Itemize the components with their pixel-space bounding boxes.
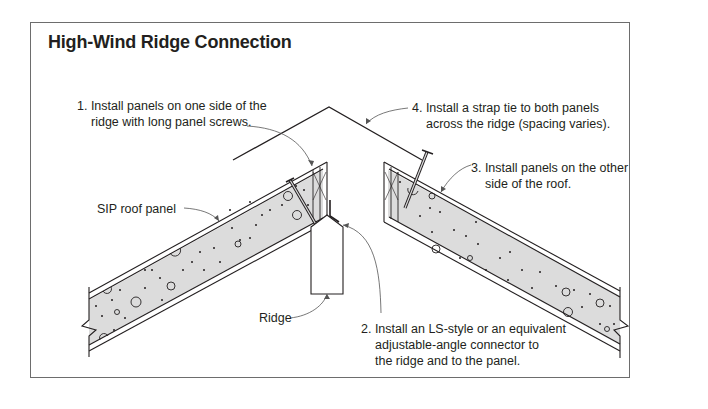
- callout-step4: 4. Install a strap tie to both panels ac…: [412, 100, 610, 132]
- callout-step2: 2. Install an LS-style or an equivalent …: [361, 321, 566, 369]
- leader-step4: [366, 108, 408, 124]
- leader-step2: [343, 225, 381, 313]
- left-sip-panel: [82, 162, 327, 357]
- leader-step1: [247, 126, 312, 166]
- leader-sip: [184, 208, 219, 221]
- label-sip-roof-panel: SIP roof panel: [97, 201, 176, 217]
- label-ridge: Ridge: [259, 310, 292, 326]
- leader-ridge: [290, 294, 327, 318]
- callout-step3: 3. Install panels on the other side of t…: [471, 160, 628, 192]
- leader-step3: [441, 165, 471, 192]
- callout-step1: 1. Install panels on one side of the rid…: [77, 98, 267, 130]
